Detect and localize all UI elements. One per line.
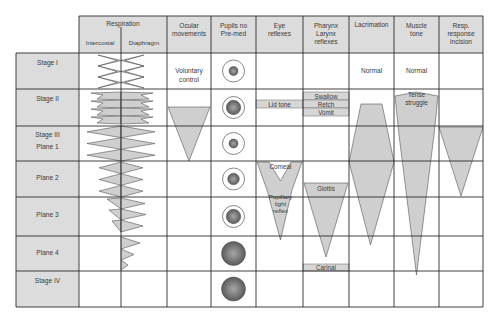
pharynx-retch: Retch [318,101,335,108]
pharynx-carinal: Carinal [316,264,336,271]
stage2-diaphragm-1 [121,92,153,100]
stage2-diaphragm-4 [121,116,153,124]
plane2-intercostal-2 [99,174,121,186]
eye-lid-tone: Lid tone [268,101,291,108]
header-pharynx-larynx-line-2: Larynx [316,30,336,38]
header-pharynx-larynx-line-1: Pharynx [314,22,339,30]
eye-pupillary-light-reflex-line-2: light [275,200,287,207]
ocular-voluntary-control-line-2: control [179,76,199,83]
stage2-intercostal-3 [91,108,121,116]
stage-label-4: Plane 2 [36,174,59,181]
plane2-diaphragm-2 [121,174,143,186]
stage-label-1: Stage I [37,59,58,67]
plane1-intercostal-1 [87,126,121,138]
stage1-intercostal-1 [98,55,121,66]
plane4-diaphragm-2 [121,249,134,260]
header-muscle-tone-line-1: Muscle [406,22,427,29]
muscle-tense-struggle-line-2: struggle [405,99,428,107]
plane1-intercostal-3 [87,149,121,161]
header-lacrimation: Lacrimation [354,21,388,28]
stage-label-3-line-2: Plane 1 [36,143,59,150]
plane3-intercostal-2 [109,209,121,220]
plane3-intercostal-1 [107,198,121,209]
plane4-diaphragm-3 [121,260,128,270]
eye-corneal: Corneal [269,163,291,170]
header-resp-response-line-3: incision [450,38,472,45]
plane3-diaphragm-1 [121,198,145,209]
pharynx-glottis: Glottis [317,185,335,192]
stage-label-5: Plane 3 [36,211,59,218]
pharynx-swallow: Swallow [314,93,338,100]
header-eye-reflexes-line-1: Eye [274,22,286,30]
header-eye-reflexes-line-2: reflexes [268,30,292,37]
eye-pupillary-light-reflex-line-3: reflex [273,207,289,214]
header-pupils-line-1: Pupils no [220,22,247,30]
stage2-intercostal-1 [91,92,121,100]
plane2-diaphragm-1 [121,162,143,174]
pupil-7 [222,277,246,301]
header-respiration: Respiration [106,20,140,28]
stage2-diaphragm-3 [121,108,153,116]
ocular-movements-triangle [168,107,210,161]
plane1-diaphragm-3 [121,149,155,161]
plane1-diaphragm-1 [121,126,155,138]
plane3-diaphragm-2 [121,209,146,220]
pupil-1 [229,67,238,76]
header-intercostal: Intercostal [86,39,115,46]
stage1-diaphragm-3 [121,77,144,88]
glottis-triangle [304,183,348,257]
anaesthesia-stages-diagram: RespirationIntercostalDiaphragmOcularmov… [0,0,497,323]
stage-label-7: Stage IV [35,277,61,285]
plane3-diaphragm-3 [121,220,143,232]
stage2-intercostal-4 [91,116,121,124]
plane1-diaphragm-2 [121,138,155,150]
pupil-4 [228,173,240,185]
pupil-2 [226,100,240,114]
plane4-diaphragm-1 [121,237,140,249]
plane2-intercostal-3 [99,185,121,197]
header-ocular-movements-line-1: Ocular [179,22,199,29]
header-resp-response-line-2: response [447,30,474,38]
header-resp-response-line-1: Resp. [452,22,469,30]
header-pupils-line-2: Pre-med [221,30,247,37]
stage1-intercostal-2 [98,66,121,77]
stage1-intercostal-3 [98,77,121,88]
stage-label-3-line-1: Stage III [35,131,60,139]
stage-label-6: Plane 4 [36,249,59,256]
plane3-intercostal-3 [112,220,121,232]
stage2-diaphragm-2 [121,100,153,108]
stage1-diaphragm-1 [121,55,144,66]
plane2-diaphragm-3 [121,185,143,197]
pupil-6 [222,242,246,266]
muscle-tone-normal: Normal [406,67,428,74]
header-pharynx-larynx-line-3: reflexes [314,38,338,45]
pharynx-vomit: Vomit [318,109,334,116]
stage1-diaphragm-2 [121,66,144,77]
muscle-tone-shape [395,92,438,275]
stage2-intercostal-2 [91,100,121,108]
plane2-intercostal-1 [99,162,121,174]
stage-label-2: Stage II [36,95,59,103]
lacrimation-shape [349,104,394,245]
header-muscle-tone-line-2: tone [410,30,423,37]
header-diaphragm: Diaphragm [129,39,159,46]
header-ocular-movements-line-2: movements [172,30,207,37]
plane1-intercostal-2 [87,138,121,150]
lacrimation-normal: Normal [361,67,383,74]
pupil-5 [226,209,240,223]
resp-response-triangle [439,127,483,196]
ocular-voluntary-control-line-1: Voluntary [175,67,203,75]
muscle-tense-struggle-line-1: Tense [408,91,425,98]
pupil-3 [229,139,238,148]
eye-pupillary-light-reflex-line-1: Pupillary [269,193,294,200]
